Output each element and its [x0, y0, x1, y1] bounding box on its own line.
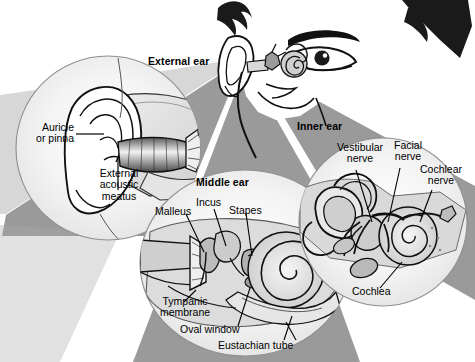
label-tympanic-membrane: Tympanic membrane	[146, 296, 224, 319]
label-cochlear-nerve: Cochlear nerve	[412, 164, 470, 187]
label-eustachian-tube: Eustachian tube	[218, 340, 293, 351]
label-incus: Incus	[196, 197, 221, 208]
section-title-external-ear: External ear	[148, 56, 209, 67]
label-facial-nerve: Facial nerve	[386, 140, 430, 163]
label-vestibular-nerve: Vestibular nerve	[330, 142, 390, 165]
label-external-acoustic-meatus: External acoustic meatus	[88, 168, 150, 202]
ear-anatomy-figure: External ear Middle ear Inner ear Auricl…	[0, 0, 475, 362]
label-auricle-or-pinna: Auricle or pinna	[12, 122, 74, 145]
label-stapes: Stapes	[229, 205, 262, 216]
section-title-inner-ear: Inner ear	[297, 121, 342, 132]
label-cochlea: Cochlea	[352, 286, 391, 297]
section-title-middle-ear: Middle ear	[196, 177, 249, 188]
label-oval-window: Oval window	[180, 324, 240, 335]
label-malleus: Malleus	[155, 206, 191, 217]
